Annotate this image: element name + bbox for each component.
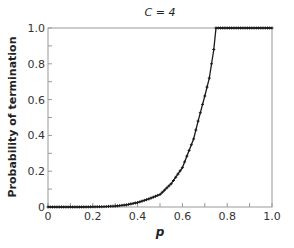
data-point-marker <box>199 111 202 114</box>
data-series <box>47 27 274 209</box>
data-point-marker <box>210 62 213 65</box>
x-tick-label: 0.6 <box>174 210 192 223</box>
plot-frame <box>48 28 272 207</box>
data-point-marker <box>271 27 274 30</box>
x-tick-label: 0.8 <box>218 210 236 223</box>
data-point-marker <box>212 48 215 51</box>
x-tick-label: 0 <box>45 210 52 223</box>
data-point-marker <box>194 129 197 132</box>
x-axis: 00.20.40.60.81.0 <box>45 203 281 223</box>
y-tick-label: 0.4 <box>28 129 46 142</box>
x-axis-label: p <box>155 225 165 239</box>
y-axis-label: Probability of termination <box>6 36 19 197</box>
data-point-marker <box>206 86 209 89</box>
chart-title: C = 4 <box>145 6 176 19</box>
y-tick-label: 0.2 <box>28 165 46 178</box>
data-point-marker <box>208 77 211 80</box>
x-tick-label: 0.2 <box>84 210 102 223</box>
data-point-marker <box>201 103 204 106</box>
data-point-marker <box>197 120 200 123</box>
y-tick-label: 1.0 <box>28 22 46 35</box>
y-tick-label: 0.8 <box>28 58 46 71</box>
series-line <box>48 28 272 207</box>
x-tick-label: 1.0 <box>263 210 281 223</box>
x-tick-label: 0.4 <box>129 210 147 223</box>
y-tick-label: 0.6 <box>28 94 46 107</box>
termination-probability-chart: C = 4 00.20.40.60.81.0 00.20.40.60.81.0 … <box>0 0 294 248</box>
data-point-marker <box>203 95 206 98</box>
